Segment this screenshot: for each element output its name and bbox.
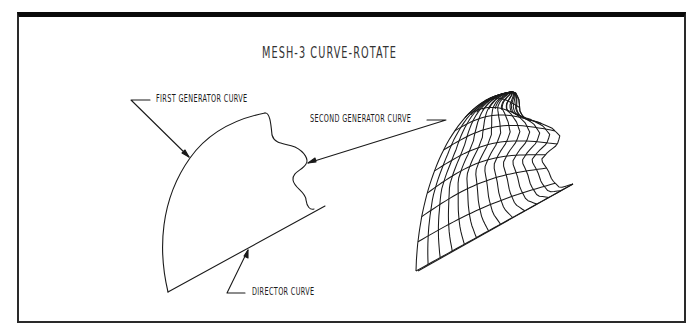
- mesh-line: [418, 184, 573, 271]
- second-generator-curve: [265, 113, 314, 209]
- rotated-mesh-surface: [416, 92, 573, 271]
- first-generator-label: FIRST GENERATOR CURVE: [156, 93, 247, 104]
- director-arrowhead: [244, 250, 248, 258]
- mesh-line: [512, 92, 573, 187]
- director-curve: [168, 206, 325, 292]
- mesh-line: [494, 92, 512, 218]
- first-generator-leader: [131, 100, 189, 157]
- second-generator-arrowhead: [308, 158, 316, 163]
- mesh-line: [512, 92, 549, 198]
- second-generator-label: SECOND GENERATOR CURVE: [310, 113, 411, 124]
- second-generator-leader: [308, 120, 446, 163]
- first-generator-curve: [163, 113, 265, 292]
- director-label: DIRECTOR CURVE: [252, 286, 315, 297]
- diagram-title: MESH-3 CURVE-ROTATE: [262, 44, 397, 62]
